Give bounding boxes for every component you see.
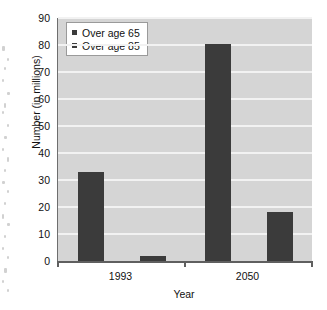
y-axis-tick-label: 70 bbox=[26, 67, 50, 77]
bar bbox=[78, 172, 104, 261]
y-axis-tick-label: 80 bbox=[26, 40, 50, 50]
gridline bbox=[58, 152, 312, 154]
plot-area: Over age 65 Over age 85 bbox=[57, 18, 312, 261]
bar bbox=[267, 212, 293, 261]
legend-item-label: Over age 65 bbox=[82, 27, 140, 39]
y-axis-tick-label: 0 bbox=[26, 256, 50, 266]
x-axis-title: Year bbox=[56, 288, 312, 300]
y-axis-tick-label: 60 bbox=[26, 94, 50, 104]
chart-legend: Over age 65 Over age 85 bbox=[66, 22, 148, 56]
y-axis-tick-label: 20 bbox=[26, 202, 50, 212]
gridline bbox=[58, 44, 312, 46]
x-axis-tick bbox=[311, 261, 313, 267]
x-axis-tick bbox=[184, 261, 186, 267]
y-axis-tick-labels: 0102030405060708090 bbox=[26, 0, 50, 310]
y-axis-tick-label: 10 bbox=[26, 229, 50, 239]
bar-chart-figure: Number (in millions) 0102030405060708090… bbox=[0, 0, 327, 310]
bar bbox=[205, 44, 231, 261]
x-axis-tick bbox=[57, 261, 59, 267]
x-axis-tick-label: 2050 bbox=[213, 270, 283, 282]
legend-item: Over age 65 bbox=[72, 26, 140, 39]
gridline bbox=[58, 125, 312, 127]
y-axis-tick-label: 50 bbox=[26, 121, 50, 131]
gridline bbox=[58, 17, 312, 19]
x-axis-tick-label: 1993 bbox=[86, 270, 156, 282]
legend-swatch-icon bbox=[72, 30, 77, 35]
scan-artifact-marks bbox=[0, 40, 14, 298]
y-axis-tick-label: 90 bbox=[26, 13, 50, 23]
y-axis-tick-label: 30 bbox=[26, 175, 50, 185]
gridline bbox=[58, 71, 312, 73]
gridline bbox=[58, 98, 312, 100]
y-axis-tick-label: 40 bbox=[26, 148, 50, 158]
